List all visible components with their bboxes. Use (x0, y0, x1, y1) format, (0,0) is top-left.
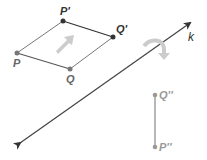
label-q-double-prime: Q'' (159, 90, 173, 101)
label-p: P (13, 58, 20, 69)
segment-q-p (17, 53, 70, 69)
label-line-k: k (188, 31, 194, 43)
diagram-canvas (0, 0, 207, 160)
label-q: Q (66, 74, 75, 85)
label-p-prime: P' (60, 6, 70, 17)
segment-p-pprime (17, 21, 63, 53)
point-q-prime (111, 35, 116, 40)
curved-reflection-arrow-icon (144, 40, 170, 60)
line-k (20, 23, 190, 143)
segment-pprime-qprime (63, 21, 113, 37)
point-q (68, 67, 73, 72)
point-p-prime (61, 19, 66, 24)
segment-qprime-q (70, 37, 113, 69)
point-q-double-prime (153, 93, 158, 98)
translation-arrow-icon (56, 35, 74, 54)
point-p (15, 51, 20, 56)
label-q-prime: Q' (116, 24, 127, 35)
point-p-double-prime (153, 145, 158, 150)
label-p-double-prime: P'' (159, 142, 172, 153)
